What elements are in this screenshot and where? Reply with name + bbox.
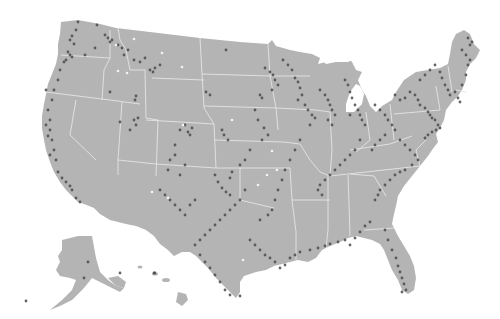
map-dot	[414, 154, 417, 157]
map-dot	[351, 97, 354, 100]
map-dot	[284, 264, 287, 267]
map-dot	[152, 71, 155, 74]
map-dot	[214, 174, 217, 177]
map-dot	[399, 139, 402, 142]
map-dot	[49, 154, 52, 157]
map-dot-highlight	[161, 52, 164, 55]
map-dot	[317, 247, 320, 250]
map-dot	[199, 239, 202, 242]
map-dot	[234, 204, 237, 207]
map-dot	[461, 49, 464, 52]
map-dot	[174, 204, 177, 207]
map-dot	[434, 64, 437, 67]
map-dot	[309, 124, 312, 127]
map-dot-highlight	[133, 38, 136, 41]
map-dot	[321, 194, 324, 197]
map-dot	[439, 71, 442, 74]
map-dot	[374, 199, 377, 202]
map-dot	[337, 241, 340, 244]
map-dot-highlight	[242, 259, 245, 262]
map-dot	[354, 149, 357, 152]
map-dot	[71, 189, 74, 192]
map-dot	[71, 56, 74, 59]
map-dot	[249, 149, 252, 152]
map-dot	[47, 109, 50, 112]
map-dot	[409, 91, 412, 94]
map-dot-highlight	[231, 119, 234, 122]
map-dot	[221, 129, 224, 132]
map-dot	[457, 97, 460, 100]
map-dot	[194, 199, 197, 202]
map-dot	[329, 104, 332, 107]
map-dot	[84, 54, 87, 57]
map-dot	[274, 199, 277, 202]
map-dot	[409, 149, 412, 152]
map-dot	[53, 89, 56, 92]
us-dot-map	[0, 0, 500, 319]
map-dot	[339, 164, 342, 167]
map-dot	[334, 114, 337, 117]
map-dot	[389, 179, 392, 182]
map-dot	[137, 117, 140, 120]
map-dot	[109, 91, 112, 94]
map-dot	[204, 261, 207, 264]
map-dot	[384, 184, 387, 187]
map-dot	[411, 164, 414, 167]
map-dot-highlight	[271, 150, 274, 153]
map-dot	[249, 239, 252, 242]
map-dot-highlight	[167, 197, 170, 200]
map-dot	[354, 237, 357, 240]
map-dot	[344, 79, 347, 82]
map-dot	[431, 117, 434, 120]
map-dot	[364, 225, 367, 228]
map-dot	[239, 295, 242, 298]
map-dot	[447, 89, 450, 92]
map-dot	[299, 139, 302, 142]
map-dot	[403, 283, 406, 286]
map-dot	[225, 49, 228, 52]
map-dot	[284, 169, 287, 172]
map-dot	[319, 89, 322, 92]
map-dot	[267, 134, 270, 137]
map-dot	[69, 39, 72, 42]
map-dot	[49, 129, 52, 132]
map-dot	[304, 104, 307, 107]
map-dot	[65, 181, 68, 184]
map-dot	[454, 91, 457, 94]
map-dot	[289, 159, 292, 162]
map-dot	[49, 119, 52, 122]
map-dot	[139, 61, 142, 64]
map-dot	[364, 124, 367, 127]
map-dot	[263, 127, 266, 130]
map-svg	[0, 0, 500, 319]
hawaii-inset	[138, 266, 189, 307]
map-dot	[405, 289, 408, 292]
map-dot	[219, 281, 222, 284]
map-dot	[429, 69, 432, 72]
map-dot	[427, 111, 430, 114]
map-dot	[261, 139, 264, 142]
map-dot	[399, 171, 402, 174]
map-dot	[404, 169, 407, 172]
map-dot	[214, 224, 217, 227]
map-dot	[87, 261, 90, 264]
map-dot	[384, 114, 387, 117]
map-dot	[189, 204, 192, 207]
map-dot	[209, 267, 212, 270]
map-dot	[404, 144, 407, 147]
map-dot	[174, 154, 177, 157]
map-dot	[349, 91, 352, 94]
map-dot	[384, 134, 387, 137]
map-dot	[61, 177, 64, 180]
map-dot	[254, 109, 257, 112]
map-dot	[239, 164, 242, 167]
map-dot	[404, 97, 407, 100]
map-dot	[394, 129, 397, 132]
map-dot	[311, 114, 314, 117]
map-dot	[65, 59, 68, 62]
map-dot	[394, 94, 397, 97]
map-dot	[324, 179, 327, 182]
map-dot	[227, 139, 230, 142]
map-dot	[449, 94, 452, 97]
map-dot	[167, 169, 170, 172]
